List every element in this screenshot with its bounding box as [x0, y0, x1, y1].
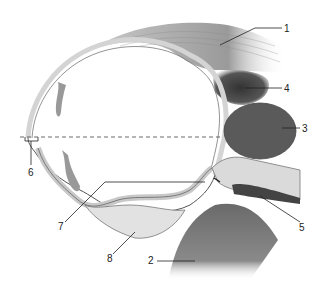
label-1: 1 — [284, 23, 290, 34]
label-3: 3 — [302, 123, 308, 134]
structure-8-pouch — [85, 205, 185, 238]
label-7: 7 — [58, 221, 64, 232]
organ-wall-outer — [28, 40, 226, 216]
structure-2 — [168, 204, 278, 280]
label-8: 8 — [107, 253, 113, 264]
projection-upper — [56, 82, 66, 117]
label-5: 5 — [299, 222, 305, 233]
label-4: 4 — [284, 83, 290, 94]
structure-3 — [224, 103, 296, 159]
label-6: 6 — [28, 167, 34, 178]
diagram-canvas: 1 2 3 4 5 6 7 8 — [0, 0, 327, 300]
label-2: 2 — [148, 255, 154, 266]
